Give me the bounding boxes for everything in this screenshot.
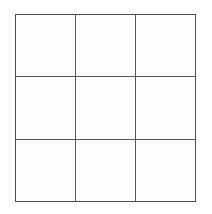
grid-cell [76,14,136,77]
grid-cell [15,14,76,77]
grid-figure [15,14,196,202]
grid-cell [15,140,76,202]
grid-cell [76,140,136,202]
grid-cell [136,77,196,140]
figure-canvas [0,0,212,214]
grid-cell [136,140,196,202]
grid-cell [15,77,76,140]
grid-cell [136,14,196,77]
grid-cell [76,77,136,140]
